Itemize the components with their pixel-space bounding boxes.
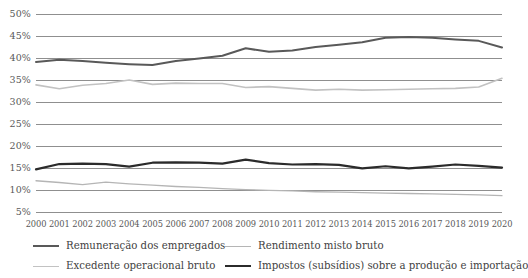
- y-tick-5%: 5%: [0, 206, 31, 217]
- y-tick-25%: 25%: [0, 118, 31, 129]
- series-line-1: [36, 181, 502, 196]
- legend-item-excedente-operacional-bruto[interactable]: Excedente operacional bruto: [33, 261, 215, 271]
- legend-item-remuneracao-dos-empregados[interactable]: Remuneração dos empregados: [33, 241, 225, 251]
- plot-area: 50%45%40%35%30%25%20%15%10%5% 2000200120…: [0, 0, 510, 232]
- legend-label-1: Rendimento misto bruto: [258, 241, 384, 251]
- legend-label-2: Excedente operacional bruto: [66, 261, 215, 271]
- legend-line-swatch-0: [33, 245, 59, 247]
- series-line-0: [36, 37, 502, 65]
- legend-item-impostos-subsidios-sobre-a-producao-e-importacao[interactable]: Impostos (subsídios) sobre a produção e …: [225, 261, 528, 271]
- y-tick-30%: 30%: [0, 96, 31, 107]
- y-tick-15%: 15%: [0, 162, 31, 173]
- y-tick-45%: 45%: [0, 30, 31, 41]
- legend-line-swatch-3: [225, 265, 251, 267]
- y-tick-35%: 35%: [0, 74, 31, 85]
- chart-legend: Remuneração dos empregados Rendimento mi…: [0, 240, 510, 278]
- plot-svg: [0, 0, 510, 232]
- legend-item-rendimento-misto-bruto[interactable]: Rendimento misto bruto: [225, 241, 384, 251]
- y-tick-50%: 50%: [0, 8, 31, 19]
- legend-label-3: Impostos (subsídios) sobre a produção e …: [258, 261, 528, 271]
- y-tick-20%: 20%: [0, 140, 31, 151]
- series-line-3: [36, 160, 502, 170]
- y-tick-40%: 40%: [0, 52, 31, 63]
- x-tick-2020: 2020: [487, 219, 517, 229]
- y-tick-10%: 10%: [0, 184, 31, 195]
- legend-line-swatch-2: [33, 266, 59, 267]
- legend-label-0: Remuneração dos empregados: [66, 241, 225, 251]
- legend-line-swatch-1: [225, 246, 251, 247]
